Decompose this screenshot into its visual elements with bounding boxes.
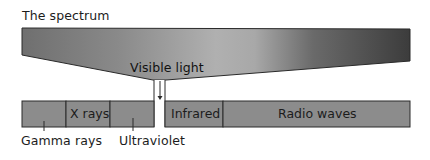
gamma-rays-label: Gamma rays	[21, 134, 102, 148]
spectrum-diagram: The spectrum Visible light X rays Infrar…	[0, 0, 430, 160]
band-ultraviolet	[110, 101, 154, 127]
visible-light-label: Visible light	[130, 61, 204, 75]
ultraviolet-label: Ultraviolet	[119, 134, 185, 148]
infrared-label: Infrared	[171, 107, 220, 121]
radio-waves-label: Radio waves	[278, 107, 357, 121]
diagram-title: The spectrum	[22, 9, 110, 23]
xray-label: X rays	[70, 107, 109, 121]
spectrum-band	[22, 28, 410, 80]
